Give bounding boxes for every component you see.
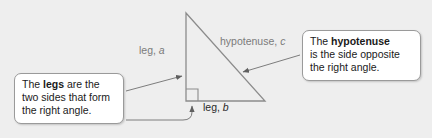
- callout-legs-line1: The legs are the: [22, 78, 117, 91]
- label-hypotenuse-c-text: hypotenuse,: [220, 35, 280, 47]
- callout-legs: The legs are the two sides that form the…: [14, 73, 124, 124]
- callout-hypotenuse-keyword: hypotenuse: [331, 35, 390, 47]
- label-leg-a-variable: a: [159, 44, 165, 56]
- label-hypotenuse-c: hypotenuse, c: [220, 35, 285, 47]
- label-hypotenuse-c-variable: c: [280, 35, 285, 47]
- label-leg-a: leg, a: [139, 44, 165, 56]
- callout-legs-line1-pre: The: [22, 78, 43, 90]
- diagram-canvas: leg, a hypotenuse, c leg, b The legs are…: [0, 0, 432, 138]
- triangle-shape: [186, 13, 265, 101]
- callout-legs-keyword: legs: [43, 78, 64, 90]
- connector-legs-to-leg-b: [126, 106, 192, 120]
- connector-hypotenuse-to-side: [243, 55, 300, 72]
- right-angle-marker: [186, 89, 198, 101]
- label-leg-b-variable: b: [223, 101, 229, 113]
- callout-legs-line2: two sides that form: [22, 91, 117, 104]
- callout-hypotenuse-line1: The hypotenuse: [310, 35, 414, 48]
- callout-hypotenuse-line3: the right angle.: [310, 61, 414, 74]
- label-leg-a-text: leg,: [139, 44, 159, 56]
- callout-hypotenuse: The hypotenuse is the side opposite the …: [302, 30, 421, 81]
- callout-legs-line1-post: are the: [64, 78, 100, 90]
- callout-legs-line3: the right angle.: [22, 104, 117, 117]
- callout-hypotenuse-line2: is the side opposite: [310, 48, 414, 61]
- callout-hypotenuse-line1-pre: The: [310, 35, 331, 47]
- connector-legs-to-leg-a: [126, 76, 182, 91]
- label-leg-b-text: leg,: [203, 101, 223, 113]
- label-leg-b: leg, b: [203, 101, 229, 113]
